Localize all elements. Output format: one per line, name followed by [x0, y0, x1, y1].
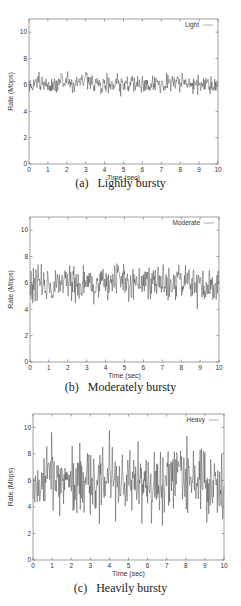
y-tick-label: 4 [27, 503, 31, 510]
caption-text: Heavily bursty [96, 581, 167, 595]
x-tick-label: 10 [220, 562, 228, 569]
y-tick-label: 8 [27, 450, 31, 457]
y-tick-label: 2 [27, 530, 31, 537]
x-tick-label: 3 [88, 562, 92, 569]
data-series-heavy [33, 430, 224, 525]
x-tick-label: 6 [146, 562, 150, 569]
chart-panel-heavily-bursty: 012345678910Time (sec)0246810Rate (Mbps)… [0, 0, 241, 606]
x-tick-label: 0 [31, 562, 35, 569]
y-tick-label: 0 [27, 556, 31, 563]
x-tick-label: 8 [184, 562, 188, 569]
y-tick-label: 6 [27, 477, 31, 484]
x-axis-label: Time (sec) [112, 570, 145, 578]
x-tick-label: 5 [127, 562, 131, 569]
x-tick-label: 7 [165, 562, 169, 569]
y-axis-label: Rate (Mbps) [7, 468, 15, 507]
legend-label: Heavy [187, 416, 206, 424]
caption-c: (c)Heavily bursty [0, 581, 241, 596]
caption-label: (c) [74, 581, 87, 595]
legend: Heavy [187, 416, 219, 424]
line-chart-heavy: 012345678910Time (sec)0246810Rate (Mbps)… [0, 0, 241, 606]
x-tick-label: 9 [203, 562, 207, 569]
y-tick-label: 10 [24, 424, 32, 431]
x-tick-label: 2 [69, 562, 73, 569]
x-tick-label: 4 [108, 562, 112, 569]
x-tick-label: 1 [50, 562, 54, 569]
